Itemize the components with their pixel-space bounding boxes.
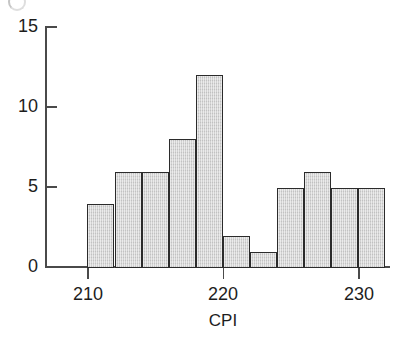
histogram-bar xyxy=(142,172,169,268)
histogram-figure: 15 10 5 0 210 220 230 CPI xyxy=(0,0,416,345)
histogram-bar xyxy=(115,172,142,268)
histogram-bar xyxy=(250,252,277,268)
y-tick-label-5: 5 xyxy=(0,177,38,195)
histogram-bar xyxy=(331,188,358,268)
x-tick-label-210: 210 xyxy=(58,285,118,303)
y-tick-10 xyxy=(45,106,57,108)
y-tick-label-15: 15 xyxy=(0,17,38,35)
x-tick-label-220: 220 xyxy=(193,285,253,303)
y-axis-line xyxy=(45,26,47,268)
x-tick-label-230: 230 xyxy=(329,285,389,303)
histogram-bar xyxy=(196,75,223,268)
histogram-bar xyxy=(87,204,114,268)
histogram-bar xyxy=(169,139,196,268)
y-tick-15 xyxy=(45,26,57,28)
x-tick-220 xyxy=(223,266,225,279)
x-tick-210 xyxy=(87,266,89,279)
histogram-bar xyxy=(223,236,250,268)
cropped-caption-glyph xyxy=(8,0,26,11)
y-tick-5 xyxy=(45,186,57,188)
histogram-bar xyxy=(304,172,331,268)
y-tick-label-10: 10 xyxy=(0,97,38,115)
x-axis-title: CPI xyxy=(163,312,283,330)
histogram-bar xyxy=(358,188,385,268)
histogram-bar xyxy=(277,188,304,268)
y-tick-label-0: 0 xyxy=(0,257,38,275)
x-tick-230 xyxy=(358,266,360,279)
